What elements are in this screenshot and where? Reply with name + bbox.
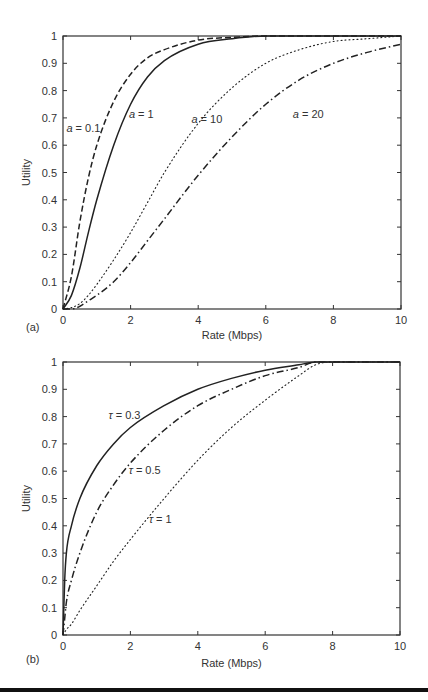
- chart-panel-b: 00.10.20.30.40.50.60.70.80.910246810Rate…: [20, 356, 406, 669]
- y-axis-label: Utility: [20, 159, 32, 186]
- y-tick-label: 0.8: [42, 411, 57, 423]
- x-tick-label: 8: [330, 314, 336, 326]
- plot-frame: [63, 362, 400, 635]
- bottom-divider: [0, 688, 428, 692]
- x-tick-label: 4: [195, 640, 201, 652]
- series-line: a = 10: [63, 36, 401, 309]
- y-tick-label: 0.1: [42, 276, 57, 288]
- y-tick-label: 0.7: [42, 438, 57, 450]
- x-tick-label: 2: [127, 640, 133, 652]
- y-tick-label: 0.6: [42, 465, 57, 477]
- y-tick-label: 1: [51, 30, 57, 42]
- utility-figure: 00.10.20.30.40.50.60.70.80.910246810Rate…: [0, 0, 428, 700]
- x-tick-label: 0: [60, 640, 66, 652]
- series-line: a = 1: [63, 36, 401, 309]
- y-tick-label: 0.3: [42, 221, 57, 233]
- y-tick-label: 0.9: [42, 383, 57, 395]
- plot-frame: [63, 36, 401, 309]
- y-tick-label: 0.8: [42, 85, 57, 97]
- series-line: τ = 0.3: [63, 362, 400, 635]
- y-tick-label: 0.4: [42, 194, 57, 206]
- x-axis-label: Rate (Mbps): [202, 329, 263, 341]
- series-line: a = 20: [63, 44, 401, 309]
- y-tick-label: 0.4: [42, 520, 57, 532]
- y-tick-label: 0.2: [42, 574, 57, 586]
- y-tick-label: 0.7: [42, 112, 57, 124]
- x-tick-label: 4: [195, 314, 201, 326]
- y-tick-label: 0.3: [42, 547, 57, 559]
- curve-annotation: a = 10: [191, 113, 222, 125]
- chart-panel-a: 00.10.20.30.40.50.60.70.80.910246810Rate…: [20, 30, 407, 341]
- x-tick-label: 2: [128, 314, 134, 326]
- panel-label: (a): [26, 321, 39, 333]
- x-tick-label: 8: [330, 640, 336, 652]
- y-tick-label: 0.9: [42, 57, 57, 69]
- x-tick-label: 6: [263, 314, 269, 326]
- x-axis-label: Rate (Mbps): [201, 657, 262, 669]
- curve-annotation: a = 0.1: [66, 122, 100, 134]
- curve-annotation: a = 20: [293, 108, 324, 120]
- y-tick-label: 0: [51, 303, 57, 315]
- x-tick-label: 0: [60, 314, 66, 326]
- curve-annotation: τ = 0.3: [108, 409, 140, 421]
- y-tick-label: 0: [51, 629, 57, 641]
- series-line: a = 0.1: [63, 36, 401, 309]
- y-tick-label: 0.5: [42, 167, 57, 179]
- x-tick-label: 10: [394, 640, 406, 652]
- curve-annotation: τ = 1: [149, 513, 172, 525]
- y-tick-label: 0.2: [42, 248, 57, 260]
- panel-label: (b): [26, 653, 39, 665]
- x-tick-label: 10: [395, 314, 407, 326]
- y-tick-label: 0.6: [42, 139, 57, 151]
- y-axis-label: Utility: [20, 485, 32, 512]
- curve-annotation: a = 1: [129, 108, 154, 120]
- x-tick-label: 6: [262, 640, 268, 652]
- curve-annotation: τ = 0.5: [129, 464, 161, 476]
- series-line: τ = 1: [63, 362, 400, 635]
- series-line: τ = 0.5: [63, 362, 400, 635]
- y-tick-label: 0.5: [42, 493, 57, 505]
- y-tick-label: 1: [51, 356, 57, 368]
- y-tick-label: 0.1: [42, 602, 57, 614]
